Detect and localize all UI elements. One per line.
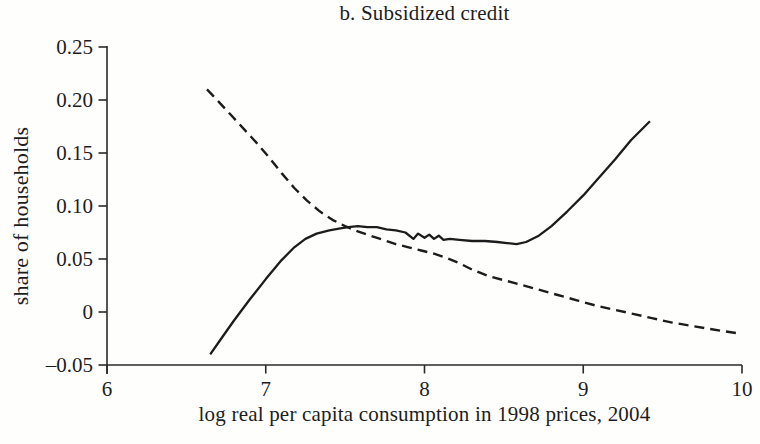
solid-line-series: [210, 121, 650, 354]
x-tick-label: 8: [419, 377, 430, 401]
y-tick-label: 0.05: [56, 247, 93, 271]
plot-area: –0.0500.050.100.150.200.25678910: [0, 0, 760, 444]
y-tick-label: 0: [83, 300, 94, 324]
chart-figure: b. Subsidized credit share of households…: [0, 0, 760, 444]
y-tick-label: 0.20: [56, 88, 93, 112]
x-tick-label: 6: [102, 377, 113, 401]
y-tick-label: –0.05: [45, 353, 93, 377]
y-tick-label: 0.25: [56, 35, 93, 59]
x-tick-label: 10: [732, 377, 753, 401]
x-tick-label: 7: [261, 377, 272, 401]
x-tick-label: 9: [578, 377, 589, 401]
x-axis-title: log real per capita consumption in 1998 …: [107, 402, 742, 427]
dashed-line-series: [207, 89, 737, 333]
y-tick-label: 0.15: [56, 141, 93, 165]
y-tick-label: 0.10: [56, 194, 93, 218]
